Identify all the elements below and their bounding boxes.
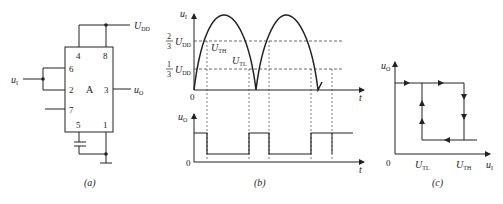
- chip-label: A: [86, 84, 94, 95]
- pin-4-label: 4: [76, 51, 81, 61]
- pin-1-label: 1: [103, 120, 108, 130]
- pin-7-label: 7: [69, 105, 74, 115]
- input-label: uI: [11, 74, 18, 86]
- c-tick-uth: UTH: [456, 159, 472, 171]
- svg-text:2: 2: [167, 32, 171, 41]
- xlabel-bottom: t: [359, 164, 362, 175]
- caption-b: (b): [254, 177, 266, 189]
- pin-8-label: 8: [103, 51, 108, 61]
- svg-text:1: 1: [167, 60, 171, 69]
- svg-text:3: 3: [167, 70, 171, 79]
- uth-label: UTH: [211, 42, 227, 54]
- top-ylabel: uI: [180, 8, 187, 20]
- bottom-ylabel: uO: [178, 111, 188, 123]
- pin-2-label: 2: [69, 85, 74, 95]
- origin-bottom: 0: [186, 158, 191, 168]
- c-ylabel: uO: [381, 60, 391, 72]
- output-label: uO: [134, 84, 144, 96]
- utl-label: UTL: [232, 55, 247, 67]
- caption-c: (c): [432, 177, 444, 189]
- svg-text:3: 3: [167, 42, 171, 51]
- c-origin: 0: [386, 158, 391, 168]
- output-waveform: [194, 133, 353, 154]
- xlabel-top: t: [359, 92, 362, 103]
- level-high-label: 2 3 UDD: [166, 32, 192, 51]
- pin-6-label: 6: [69, 64, 74, 74]
- supply-label: UDD: [134, 20, 151, 32]
- svg-text:UDD: UDD: [175, 36, 192, 48]
- figure-canvas: 4 8 6 2 3 7 5 1 A UDD uI uO (a): [0, 0, 503, 204]
- c-xlabel: uI: [486, 159, 493, 171]
- origin-top: 0: [190, 92, 195, 102]
- supply-wire: [79, 25, 130, 47]
- pin-5-label: 5: [76, 120, 81, 130]
- panel-b-waveforms: [194, 14, 364, 162]
- junction-dot: [104, 23, 108, 27]
- junction-dot: [41, 77, 45, 81]
- panel-c-hysteresis: [395, 62, 490, 154]
- pin-3-label: 3: [104, 85, 109, 95]
- panel-a-circuit: [23, 25, 131, 163]
- svg-text:UDD: UDD: [175, 64, 192, 76]
- c-tick-utl: UTL: [415, 159, 430, 171]
- junction-dot: [104, 152, 108, 156]
- caption-a: (a): [84, 177, 96, 189]
- level-low-label: 1 3 UDD: [166, 60, 192, 79]
